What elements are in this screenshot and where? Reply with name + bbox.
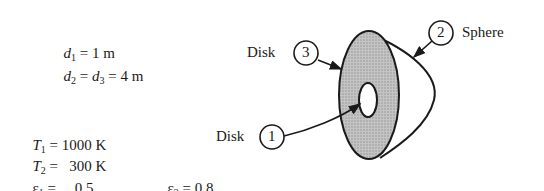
disk-1 (359, 83, 377, 117)
sphere-label: Sphere (462, 25, 504, 40)
disk-3-arrow (318, 60, 341, 69)
disk-3-number: 3 (302, 45, 310, 60)
disk-3-label: Disk (247, 45, 275, 60)
disk-1-label: Disk (216, 129, 244, 144)
sphere-2-number: 2 (437, 25, 445, 40)
sphere-2-arrow (414, 41, 432, 57)
disk-1-number: 1 (268, 129, 276, 144)
